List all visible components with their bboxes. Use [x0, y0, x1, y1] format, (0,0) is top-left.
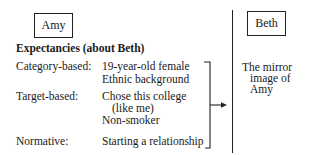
vertical-divider: [232, 10, 233, 153]
mirror-line-3: Amy: [250, 84, 273, 96]
arrow-right-icon: [210, 102, 227, 107]
bracket: [204, 62, 210, 148]
beth-label: Beth: [255, 16, 278, 31]
beth-box: Beth: [247, 11, 286, 36]
